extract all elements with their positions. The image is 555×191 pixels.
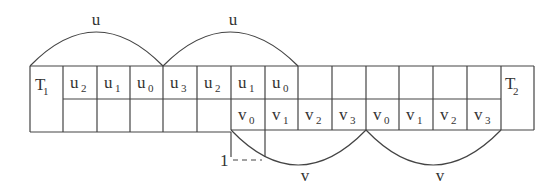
bottom-row-cells: v0v1v2v3v0v1v2v3 <box>238 105 491 126</box>
cell: u2 <box>204 73 221 94</box>
svg-text:3: 3 <box>181 82 187 94</box>
svg-text:u: u <box>70 73 79 92</box>
svg-text:1: 1 <box>249 82 255 94</box>
left-end-label: T 1 <box>35 75 49 97</box>
cell: u0 <box>272 73 289 94</box>
svg-text:v: v <box>406 105 415 124</box>
svg-text:3: 3 <box>485 114 491 126</box>
right-end-label: T 2 <box>505 74 519 97</box>
cell: v1 <box>272 105 289 126</box>
svg-text:v: v <box>272 105 281 124</box>
cell: v2 <box>305 105 322 126</box>
cell: v0 <box>238 105 255 126</box>
svg-text:u: u <box>170 73 179 92</box>
svg-text:v: v <box>238 105 247 124</box>
svg-text:1: 1 <box>43 85 49 97</box>
svg-text:1: 1 <box>115 82 121 94</box>
offset-label: 1 <box>220 151 229 170</box>
cell: v3 <box>339 105 356 126</box>
svg-text:0: 0 <box>249 114 255 126</box>
svg-text:v: v <box>373 105 382 124</box>
cell: u1 <box>238 73 255 94</box>
top-row-cells: u2u1u0u3u2u1u0 <box>70 73 289 94</box>
svg-text:3: 3 <box>350 114 356 126</box>
svg-text:u: u <box>238 73 247 92</box>
svg-text:u: u <box>204 73 213 92</box>
svg-text:1: 1 <box>417 114 423 126</box>
svg-text:u: u <box>272 73 281 92</box>
cell: u3 <box>170 73 187 94</box>
cell: v1 <box>406 105 423 126</box>
cell: v3 <box>474 105 491 126</box>
arc-u-1-label: u <box>92 10 101 29</box>
svg-text:u: u <box>104 73 113 92</box>
cell: u1 <box>104 73 121 94</box>
svg-text:v: v <box>339 105 348 124</box>
cell: u0 <box>137 73 154 94</box>
arc-u-2-label: u <box>229 10 238 29</box>
arc-v-2 <box>366 130 501 165</box>
svg-text:v: v <box>440 105 449 124</box>
arc-v-1-label: v <box>301 166 310 185</box>
cell: u2 <box>70 73 87 94</box>
arc-u-1 <box>30 32 163 66</box>
svg-text:2: 2 <box>316 114 322 126</box>
svg-text:2: 2 <box>215 82 221 94</box>
svg-text:0: 0 <box>384 114 390 126</box>
cell: v0 <box>373 105 390 126</box>
svg-text:v: v <box>474 105 483 124</box>
svg-text:0: 0 <box>148 82 154 94</box>
arc-u-2 <box>163 32 298 66</box>
svg-text:1: 1 <box>283 114 289 126</box>
arc-v-2-label: v <box>436 166 445 185</box>
svg-text:v: v <box>305 105 314 124</box>
svg-text:2: 2 <box>513 85 519 97</box>
svg-text:2: 2 <box>451 114 457 126</box>
svg-text:u: u <box>137 73 146 92</box>
svg-text:2: 2 <box>81 82 87 94</box>
tape-diagram: u u T 1 T 2 u2u1u0u3u2u1u0 v0v1v2v3v0v1v… <box>0 0 555 191</box>
cell: v2 <box>440 105 457 126</box>
svg-text:0: 0 <box>283 82 289 94</box>
